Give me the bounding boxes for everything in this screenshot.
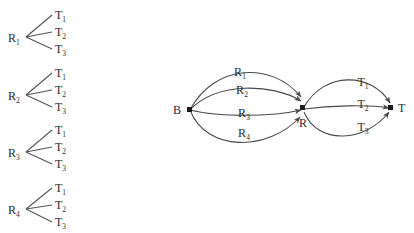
figure-canvas: R1 T1 T2 T3 R2 T1 T2 T3 xyxy=(0,0,414,233)
tree-group-2: R2 T1 T2 T3 xyxy=(8,66,66,116)
node-t-dot xyxy=(388,105,393,110)
tree-2-edge-to-leaf-2 xyxy=(26,90,52,95)
tree-1-root-label: R1 xyxy=(8,31,20,47)
tree-1-leaf-label-3: T3 xyxy=(55,42,66,58)
edge-label-r-t-1: T1 xyxy=(357,75,368,91)
tree-2-root-label: R2 xyxy=(8,89,20,105)
edge-label-r-t-2: T2 xyxy=(357,97,368,113)
node-t-label: T xyxy=(398,101,406,115)
tree-3-edge-to-leaf-2 xyxy=(26,147,52,152)
tree-2-leaf-label-1: T1 xyxy=(55,66,66,82)
tree-1-leaf-label-1: T1 xyxy=(55,8,66,24)
tree-1-leaf-label-2: T2 xyxy=(55,25,66,41)
tree-4-leaf-label-2: T2 xyxy=(55,198,66,214)
node-r-label: R xyxy=(299,116,307,130)
edge-label-b-r-2: R2 xyxy=(236,83,248,99)
tree-group-1: R1 T1 T2 T3 xyxy=(8,8,66,58)
tree-2-edge-to-leaf-1 xyxy=(26,73,52,95)
node-b-dot xyxy=(187,107,192,112)
multigraph-edges-right xyxy=(304,80,390,136)
tree-4-leaf-label-3: T3 xyxy=(55,215,66,231)
edge-label-b-r-1: R1 xyxy=(234,65,246,81)
tree-4-root-label: R4 xyxy=(8,203,20,219)
tree-3-root-label: R3 xyxy=(8,146,20,162)
tree-4-edge-to-leaf-3 xyxy=(26,209,52,222)
tree-3-edge-to-leaf-1 xyxy=(26,130,52,152)
tree-3-leaf-label-2: T2 xyxy=(55,140,66,156)
tree-1-edge-to-leaf-2 xyxy=(26,32,52,37)
tree-2-leaf-label-3: T3 xyxy=(55,100,66,116)
edge-r-to-t-1 xyxy=(304,80,390,107)
tree-group-4: R4 T1 T2 T3 xyxy=(8,181,66,231)
diagram-svg: R1 T1 T2 T3 R2 T1 T2 T3 xyxy=(0,0,414,233)
tree-3-leaf-label-1: T1 xyxy=(55,123,66,139)
tree-2-edge-to-leaf-3 xyxy=(26,95,52,107)
tree-group-3: R3 T1 T2 T3 xyxy=(8,123,66,173)
tree-3-leaf-label-3: T3 xyxy=(55,157,66,173)
edge-r-to-t-2 xyxy=(304,106,389,109)
tree-3-edge-to-leaf-3 xyxy=(26,152,52,164)
edge-r-to-t-3 xyxy=(304,112,389,136)
edge-label-b-r-4: R4 xyxy=(238,126,250,142)
tree-1-edge-to-leaf-1 xyxy=(26,15,52,37)
edge-label-b-r-3: R3 xyxy=(238,106,250,122)
node-r-dot xyxy=(300,105,305,110)
node-b-label: B xyxy=(173,103,181,117)
tree-1-edge-to-leaf-3 xyxy=(26,37,52,49)
tree-4-leaf-label-1: T1 xyxy=(55,181,66,197)
edge-label-r-t-3: T3 xyxy=(357,120,368,136)
tree-2-leaf-label-2: T2 xyxy=(55,83,66,99)
